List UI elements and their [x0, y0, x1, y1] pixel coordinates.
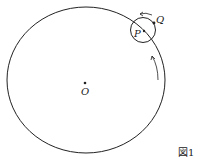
figure-caption: 図1	[178, 144, 194, 159]
large-circle	[7, 7, 165, 153]
point-q	[153, 22, 156, 25]
label-o: O	[81, 86, 89, 97]
center-point-o	[84, 82, 87, 85]
arrowhead-small-icon	[140, 12, 143, 16]
orbit-arrow-large	[152, 56, 158, 80]
label-q: Q	[156, 14, 164, 25]
figure: O P Q 図1	[0, 0, 201, 163]
diagram-canvas	[0, 0, 201, 163]
label-p: P	[134, 28, 141, 39]
point-p	[143, 30, 145, 32]
